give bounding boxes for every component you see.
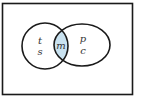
label-m: m: [56, 40, 65, 51]
venn-diagram: t s m p c: [0, 0, 142, 102]
label-c: c: [80, 45, 86, 56]
label-s: s: [37, 46, 42, 57]
label-p: p: [80, 33, 87, 44]
